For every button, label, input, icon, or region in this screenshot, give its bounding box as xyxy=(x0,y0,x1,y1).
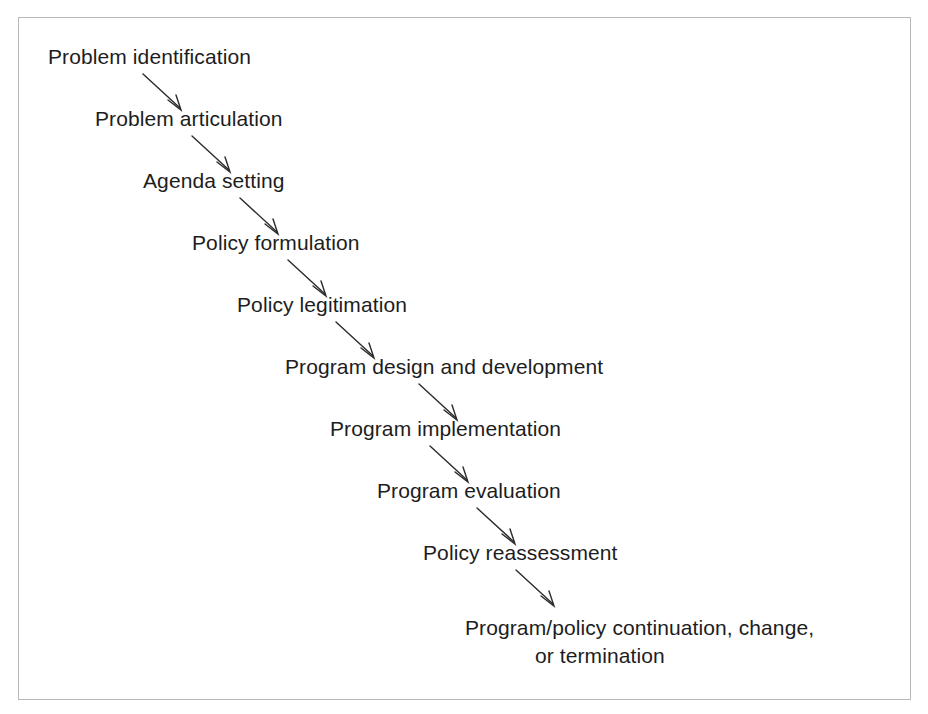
arrow-identification-to-articulation xyxy=(143,74,181,110)
stage-node-problem-identification: Problem identification xyxy=(48,44,251,70)
stage-node-program-design-and-development: Program design and development xyxy=(285,354,603,380)
stage-node-program-evaluation: Program evaluation xyxy=(377,478,561,504)
arrow-legitimation-to-design xyxy=(336,322,374,358)
stage-node-policy-formulation: Policy formulation xyxy=(192,230,360,256)
stage-node-policy-legitimation: Policy legitimation xyxy=(237,292,407,318)
stage-node-agenda-setting: Agenda setting xyxy=(143,168,285,194)
arrow-design-to-implementation xyxy=(419,384,457,420)
stage-node-continuation-line-2: or termination xyxy=(535,643,665,669)
arrow-formulation-to-legitimation xyxy=(288,260,326,296)
arrow-implementation-to-evaluation xyxy=(430,446,468,482)
arrow-articulation-to-agenda xyxy=(192,136,230,172)
stage-node-continuation-line-1: Program/policy continuation, change, xyxy=(465,615,814,641)
stage-node-problem-articulation: Problem articulation xyxy=(95,106,283,132)
arrow-reassessment-to-continuation xyxy=(516,570,554,606)
stage-node-policy-reassessment: Policy reassessment xyxy=(423,540,617,566)
arrow-evaluation-to-reassessment xyxy=(477,508,515,544)
arrow-agenda-to-formulation xyxy=(240,198,278,234)
stage-node-program-implementation: Program implementation xyxy=(330,416,561,442)
